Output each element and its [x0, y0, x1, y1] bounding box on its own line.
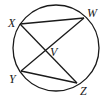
geometry-diagram: X W Y Z V	[0, 0, 108, 99]
label-x: X	[7, 16, 16, 30]
label-v: V	[50, 45, 59, 59]
chord-xz	[20, 24, 77, 83]
label-w: W	[87, 6, 98, 20]
label-y: Y	[9, 72, 17, 86]
chord-xw	[20, 18, 84, 24]
label-z: Z	[80, 84, 87, 98]
point-labels: X W Y Z V	[7, 6, 98, 98]
